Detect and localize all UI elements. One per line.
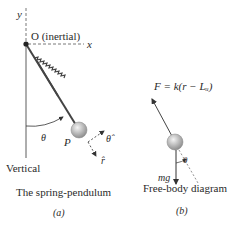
spring-force-label: F = k(r − Lᵤ)	[153, 80, 213, 93]
point-p-label: P	[63, 136, 71, 148]
theta-label: θ	[41, 132, 46, 143]
vertical-label: Vertical	[6, 162, 40, 174]
r-hat-arrow	[88, 142, 96, 156]
origin-label: O (inertial)	[31, 30, 81, 43]
rod-extension-line	[179, 150, 198, 183]
x-axis-label: x	[86, 38, 92, 50]
caption-a: The spring-pendulum	[16, 186, 111, 198]
pendulum-bob	[71, 122, 87, 138]
panel-a: y x O (inertial) θ P θ̂ r̂ Vertical The …	[6, 8, 115, 219]
theta-label-b: θ	[183, 155, 188, 165]
spring-icon	[34, 57, 65, 96]
theta-hat-arrow	[88, 131, 104, 142]
sublabel-b: (b)	[176, 205, 188, 217]
spring-force-arrow	[152, 99, 173, 138]
spring-pendulum-diagram: y x O (inertial) θ P θ̂ r̂ Vertical The …	[0, 0, 237, 229]
panel-b: F = k(r − Lᵤ) θ mg Free-body diagram (b)	[143, 80, 227, 217]
theta-hat-label: θ̂	[106, 133, 115, 144]
y-axis-label: y	[16, 8, 22, 20]
r-hat-label: r̂	[101, 155, 105, 166]
theta-arc	[26, 117, 63, 126]
sublabel-a: (a)	[53, 207, 65, 219]
free-body-bob	[167, 134, 183, 150]
origin-point	[23, 41, 28, 46]
caption-b: Free-body diagram	[143, 182, 227, 194]
